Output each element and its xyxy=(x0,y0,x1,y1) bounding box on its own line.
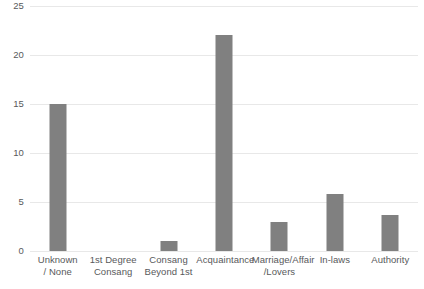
gridline xyxy=(30,251,418,252)
x-tick-label-line: Consang xyxy=(85,266,140,278)
x-tick-label: Marriage/Affair/Lovers xyxy=(252,254,307,277)
bar-chart: 0510152025 Unknown/ None1st DegreeConsan… xyxy=(0,0,424,289)
bar[interactable] xyxy=(215,35,232,251)
bar-slot xyxy=(252,6,307,251)
x-tick-label-line: Unknown xyxy=(30,254,85,266)
bar[interactable] xyxy=(49,104,66,251)
y-tick-label: 25 xyxy=(0,1,24,11)
bar[interactable] xyxy=(382,215,399,251)
x-tick-label: Acquaintance xyxy=(196,254,251,266)
y-axis: 0510152025 xyxy=(0,0,30,251)
y-tick-label: 15 xyxy=(0,99,24,109)
bar-slot xyxy=(30,6,85,251)
x-tick-label-line: Beyond 1st xyxy=(141,266,196,278)
x-tick-label-line: Marriage/Affair xyxy=(252,254,307,266)
x-tick-label-line: / None xyxy=(30,266,85,278)
bar[interactable] xyxy=(271,222,288,251)
x-tick-label: In-laws xyxy=(307,254,362,266)
y-tick-label: 5 xyxy=(0,197,24,207)
bar[interactable] xyxy=(160,241,177,251)
bar-slot xyxy=(85,6,140,251)
x-tick-label: Unknown/ None xyxy=(30,254,85,277)
bar-slot xyxy=(307,6,362,251)
x-tick-label-line: Consang xyxy=(141,254,196,266)
x-tick-label-line: In-laws xyxy=(307,254,362,266)
y-tick-label: 0 xyxy=(0,246,24,256)
bar-slot xyxy=(141,6,196,251)
x-tick-label: Authority xyxy=(363,254,418,266)
bar[interactable] xyxy=(326,194,343,251)
bar-series xyxy=(30,6,418,251)
x-tick-label: ConsangBeyond 1st xyxy=(141,254,196,277)
x-tick-label-line: Authority xyxy=(363,254,418,266)
x-tick-label-line: 1st Degree xyxy=(85,254,140,266)
x-tick-label-line: /Lovers xyxy=(252,266,307,278)
bar-slot xyxy=(363,6,418,251)
y-tick-label: 20 xyxy=(0,50,24,60)
x-tick-label: 1st DegreeConsang xyxy=(85,254,140,277)
x-tick-label-line: Acquaintance xyxy=(196,254,251,266)
x-axis: Unknown/ None1st DegreeConsangConsangBey… xyxy=(30,254,418,289)
bar-slot xyxy=(196,6,251,251)
y-tick-label: 10 xyxy=(0,148,24,158)
